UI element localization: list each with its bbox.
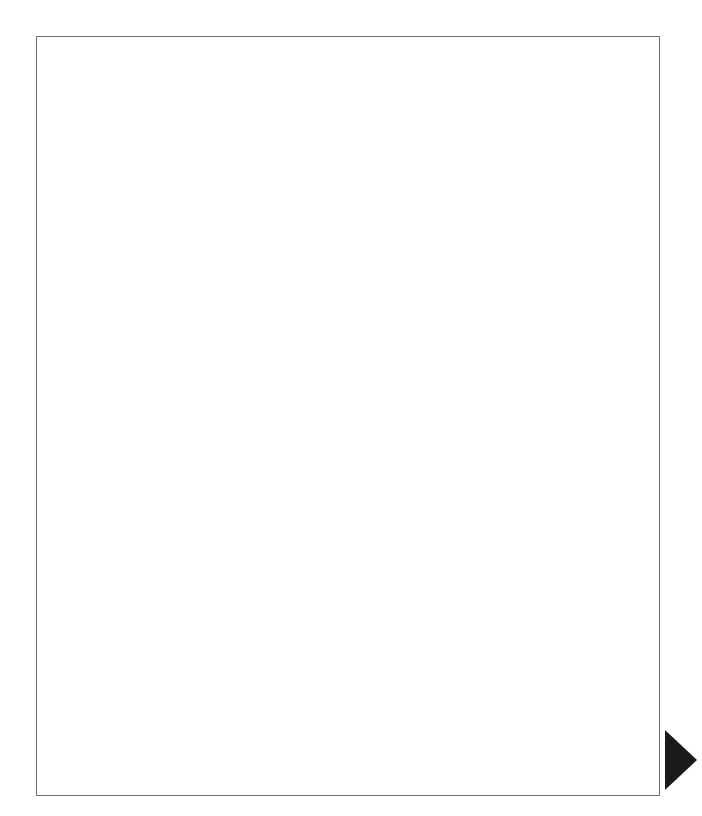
flowchart-canvas (0, 0, 702, 816)
page-turn-triangle-icon (665, 730, 697, 790)
exhibit-page (0, 0, 702, 816)
